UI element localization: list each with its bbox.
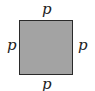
side-label-top: p [42,2,52,17]
side-label-right: p [78,38,88,53]
side-label-left: p [7,38,17,53]
side-label-bottom: p [42,77,52,91]
square-shape [19,20,73,75]
